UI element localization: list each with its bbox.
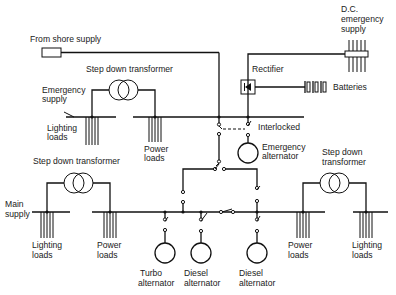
diesel-alt2-label-2: alternator [239, 278, 275, 288]
right-transformer-label-1: Step down [322, 147, 363, 157]
left-power-label-2: loads [97, 250, 118, 260]
diesel-alt1-label-1: Diesel [184, 268, 208, 278]
shore-supply-box [42, 48, 61, 57]
top-power-loads [149, 117, 161, 142]
right-power-loads [297, 212, 309, 238]
shore-supply-label: From shore supply [30, 34, 102, 44]
diesel-alternator-2 [247, 212, 267, 263]
dc-emergency-label-1: D.C. [341, 4, 358, 14]
top-power-label-2: loads [144, 153, 165, 163]
diesel-alternator-1 [191, 210, 211, 263]
emergency-alt-label-2: alternator [262, 151, 298, 161]
right-lighting-label-2: loads [352, 250, 373, 260]
right-step-down-transformer [301, 173, 367, 214]
emergency-supply-arrow [64, 112, 74, 117]
top-lighting-loads [86, 117, 98, 145]
left-power-label-1: Power [97, 240, 121, 250]
right-power-label-1: Power [288, 240, 312, 250]
main-supply-label-1: Main [5, 199, 24, 209]
ship-electrical-diagram: From shore supply Step down transformer … [0, 0, 396, 295]
left-step-down-transformer [45, 173, 111, 214]
turbo-alternator [155, 210, 175, 263]
bus-tie-switches [181, 160, 260, 212]
right-lighting-loads [360, 212, 372, 238]
top-step-down-transformer [90, 80, 156, 119]
left-lighting-label-1: Lighting [32, 240, 62, 250]
main-supply-label-2: supply [5, 209, 31, 219]
top-transformer-label: Step down transformer [86, 64, 173, 74]
interlocked-switches [217, 115, 251, 160]
emergency-alternator [238, 143, 258, 163]
turbo-alt-label-1: Turbo [140, 268, 162, 278]
turbo-alt-label-2: alternator [138, 278, 174, 288]
batteries [255, 81, 326, 93]
dc-emergency-supply [345, 40, 368, 72]
left-power-loads [104, 212, 116, 238]
emergency-supply-label-2: supply [42, 94, 68, 104]
right-transformer-label-2: transformer [322, 157, 366, 167]
right-lighting-label-1: Lighting [352, 240, 382, 250]
bus-section-switch [219, 209, 234, 214]
diesel-alt2-label-1: Diesel [239, 268, 263, 278]
shore-supply-connection [42, 48, 219, 117]
dc-emergency-label-2: emergency [341, 14, 384, 24]
interlocked-label: Interlocked [258, 122, 300, 132]
right-power-label-2: loads [288, 250, 309, 260]
left-lighting-label-2: loads [32, 250, 53, 260]
left-transformer-label: Step down transformer [33, 156, 120, 166]
rectifier-label: Rectifier [252, 64, 284, 74]
left-lighting-loads [41, 212, 53, 238]
top-lighting-label-2: loads [47, 132, 68, 142]
diesel-alt1-label-2: alternator [184, 278, 220, 288]
dc-emergency-label-3: supply [341, 24, 367, 34]
batteries-label: Batteries [333, 82, 367, 92]
